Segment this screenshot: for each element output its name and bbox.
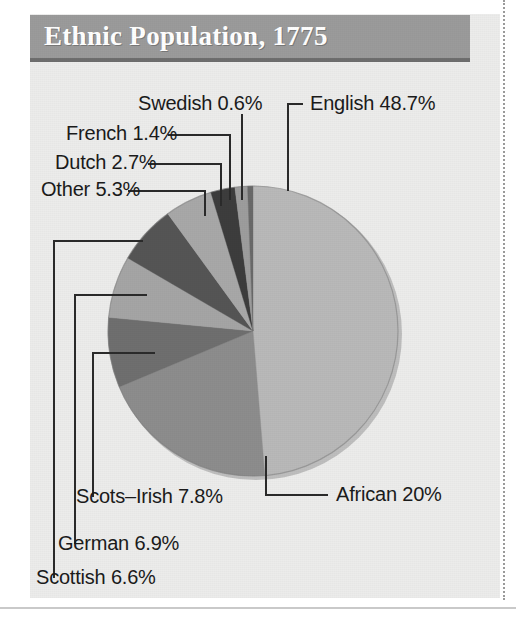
- page-bottom-rule: [0, 607, 516, 609]
- leader-scottish-h: [53, 240, 143, 242]
- slice-label-english: English 48.7%: [310, 92, 435, 115]
- leader-dutch-h: [148, 163, 222, 165]
- figure-page: Ethnic Population, 1775: [0, 0, 516, 623]
- leader-scottish-v: [53, 240, 55, 578]
- slice-label-scots-irish: Scots–Irish 7.8%: [76, 485, 223, 508]
- leader-french-h: [168, 134, 230, 136]
- leader-swedish: [241, 114, 243, 200]
- pie-slices: [108, 186, 398, 476]
- leader-african-v: [265, 456, 267, 496]
- slice-label-scottish: Scottish 6.6%: [36, 566, 156, 589]
- slice-label-french: French 1.4%: [66, 122, 177, 145]
- leader-english-v: [287, 103, 289, 191]
- slice-label-swedish: Swedish 0.6%: [138, 92, 262, 115]
- leader-dutch-v: [220, 163, 222, 206]
- leader-scots-irish-v: [92, 352, 94, 497]
- leader-french-v: [229, 134, 231, 200]
- page-margin-rule: [503, 0, 505, 600]
- leader-german-h: [74, 294, 147, 296]
- leader-scots-irish-h: [92, 352, 155, 354]
- slice-label-other: Other 5.3%: [41, 178, 140, 201]
- leader-english-h: [287, 103, 303, 105]
- leader-other-v: [204, 190, 206, 216]
- slice-label-african: African 20%: [336, 483, 442, 506]
- slice-label-dutch: Dutch 2.7%: [55, 151, 156, 174]
- leader-african-h: [265, 494, 328, 496]
- pie-slice-english: [253, 186, 398, 476]
- slice-label-german: German 6.9%: [58, 532, 179, 555]
